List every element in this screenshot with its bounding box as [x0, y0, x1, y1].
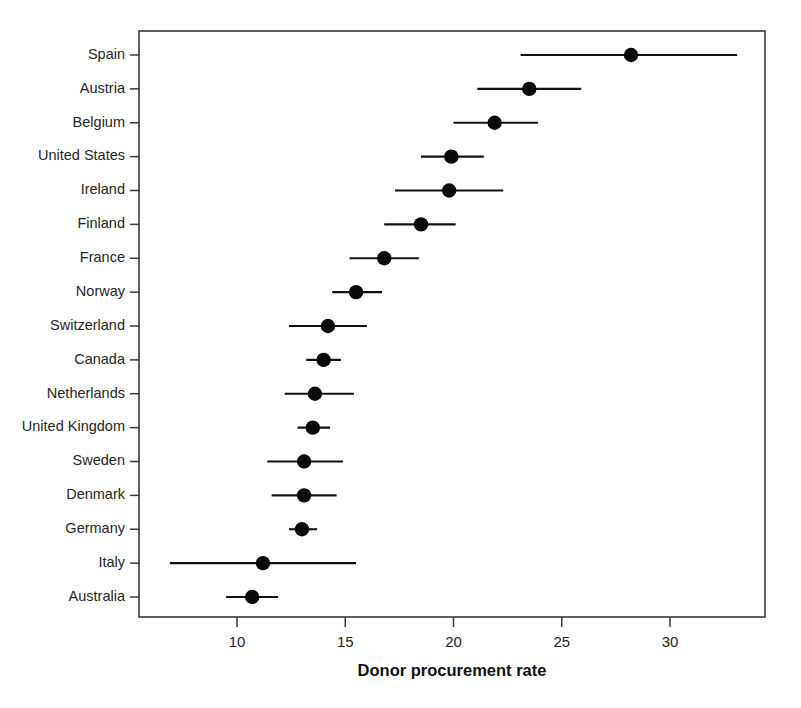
- y-label-united-kingdom: United Kingdom: [22, 418, 125, 434]
- point-austria: [522, 82, 536, 96]
- data-row-canada: [306, 353, 341, 367]
- point-finland: [414, 217, 428, 231]
- y-label-spain: Spain: [88, 46, 125, 62]
- y-label-italy: Italy: [98, 554, 125, 570]
- data-row-finland: [384, 217, 455, 231]
- data-row-united-states: [421, 149, 484, 163]
- y-label-france: France: [80, 249, 125, 265]
- y-axis-ticks: [130, 55, 139, 597]
- point-norway: [349, 285, 363, 299]
- dot-plot-chart: SpainAustriaBelgiumUnited StatesIrelandF…: [0, 0, 801, 708]
- point-australia: [245, 590, 259, 604]
- data-row-germany: [289, 522, 317, 536]
- data-row-netherlands: [285, 387, 354, 401]
- y-label-ireland: Ireland: [81, 181, 125, 197]
- x-axis-tick-labels: 1015202530: [229, 633, 679, 650]
- point-italy: [256, 556, 270, 570]
- y-label-austria: Austria: [80, 80, 126, 96]
- plot-frame: [139, 31, 765, 617]
- x-tick-label-10: 10: [229, 633, 246, 650]
- point-united-states: [444, 149, 458, 163]
- figure-container: SpainAustriaBelgiumUnited StatesIrelandF…: [0, 0, 801, 708]
- y-label-australia: Australia: [69, 588, 126, 604]
- point-belgium: [487, 116, 501, 130]
- data-row-norway: [332, 285, 382, 299]
- point-france: [377, 251, 391, 265]
- x-tick-label-20: 20: [445, 633, 462, 650]
- x-axis-ticks: [237, 617, 670, 627]
- x-tick-label-25: 25: [553, 633, 570, 650]
- data-series-points: [170, 48, 737, 604]
- data-row-italy: [170, 556, 356, 570]
- y-label-germany: Germany: [65, 520, 125, 536]
- y-label-denmark: Denmark: [66, 486, 126, 502]
- point-netherlands: [308, 387, 322, 401]
- data-row-denmark: [272, 488, 337, 502]
- data-row-sweden: [267, 454, 343, 468]
- data-row-france: [350, 251, 419, 265]
- point-denmark: [297, 488, 311, 502]
- y-label-netherlands: Netherlands: [47, 385, 125, 401]
- data-row-ireland: [395, 183, 503, 197]
- point-switzerland: [321, 319, 335, 333]
- y-label-belgium: Belgium: [73, 114, 125, 130]
- x-tick-label-30: 30: [662, 633, 679, 650]
- data-row-spain: [521, 48, 738, 62]
- data-row-switzerland: [289, 319, 367, 333]
- y-label-united-states: United States: [38, 147, 125, 163]
- x-tick-label-15: 15: [337, 633, 354, 650]
- y-label-sweden: Sweden: [73, 452, 125, 468]
- point-germany: [295, 522, 309, 536]
- point-ireland: [442, 183, 456, 197]
- point-united-kingdom: [306, 420, 320, 434]
- data-row-belgium: [454, 116, 538, 130]
- y-label-canada: Canada: [74, 351, 126, 367]
- data-row-united-kingdom: [298, 420, 330, 434]
- y-label-switzerland: Switzerland: [50, 317, 125, 333]
- y-label-finland: Finland: [77, 215, 125, 231]
- point-sweden: [297, 454, 311, 468]
- y-axis-category-labels: SpainAustriaBelgiumUnited StatesIrelandF…: [22, 46, 126, 604]
- point-canada: [316, 353, 330, 367]
- data-row-australia: [226, 590, 278, 604]
- point-spain: [624, 48, 638, 62]
- x-axis-title: Donor procurement rate: [358, 661, 547, 679]
- data-row-austria: [477, 82, 581, 96]
- y-label-norway: Norway: [76, 283, 126, 299]
